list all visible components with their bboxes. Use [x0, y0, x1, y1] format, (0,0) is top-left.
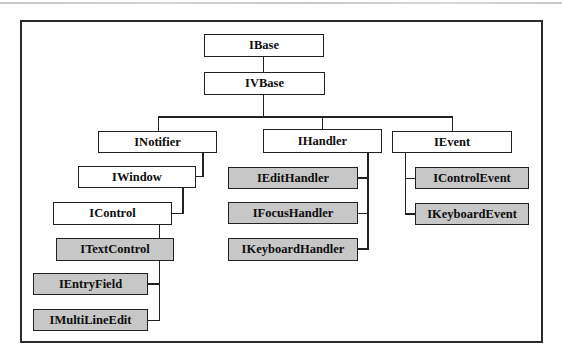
connector-iwindow-icontrol-h — [172, 213, 184, 215]
node-ikeyboardevent: IKeyboardEvent — [415, 203, 529, 225]
node-ientryfield: IEntryField — [33, 273, 148, 295]
connector-stub-imultilineedit — [148, 320, 160, 322]
connector-ihandler-spine — [367, 153, 369, 250]
connector-inotifier-iwindow-v — [202, 153, 204, 177]
hierarchy-diagram: IBase IVBase INotifier IHandler IEvent I… — [0, 0, 562, 364]
node-ikeyboardhandler: IKeyboardHandler — [228, 238, 358, 261]
node-iedithandler: IEditHandler — [228, 167, 358, 189]
connector-branch-horizontal — [158, 116, 454, 118]
connector-ievent-spine — [405, 153, 407, 215]
connector-itextcontrol-spine — [159, 261, 161, 321]
connector-stub-icontrolevent — [405, 178, 416, 180]
connector-stub-ikeyboardevent — [405, 213, 416, 215]
connector-drop-ievent — [452, 116, 454, 131]
node-icontrolevent: IControlEvent — [415, 167, 529, 189]
connector-icontrol-itextcontrol — [159, 225, 161, 238]
connector-stub-ikeyboardhandler — [358, 248, 369, 250]
connector-stub-ientryfield — [148, 283, 160, 285]
node-ievent: IEvent — [392, 131, 512, 153]
node-icontrol: IControl — [53, 202, 172, 225]
node-iwindow: IWindow — [78, 166, 196, 188]
connector-stub-ifocushandler — [358, 213, 369, 215]
connector-ivbase-branch — [263, 95, 265, 117]
node-inotifier: INotifier — [98, 131, 217, 153]
connector-ibase-ivbase — [263, 57, 265, 72]
node-ivbase: IVBase — [204, 72, 325, 95]
node-itextcontrol: ITextControl — [56, 238, 174, 261]
page-top-rule — [0, 2, 562, 4]
connector-iwindow-icontrol-v — [182, 188, 184, 214]
connector-inotifier-iwindow-h — [196, 176, 204, 178]
node-ihandler: IHandler — [263, 129, 382, 153]
node-ibase: IBase — [204, 34, 324, 57]
connector-stub-iedithandler — [358, 177, 369, 179]
connector-drop-ihandler — [322, 116, 324, 130]
connector-drop-inotifier — [158, 116, 160, 131]
node-ifocushandler: IFocusHandler — [228, 202, 358, 224]
node-imultilineedit: IMultiLineEdit — [33, 309, 148, 331]
